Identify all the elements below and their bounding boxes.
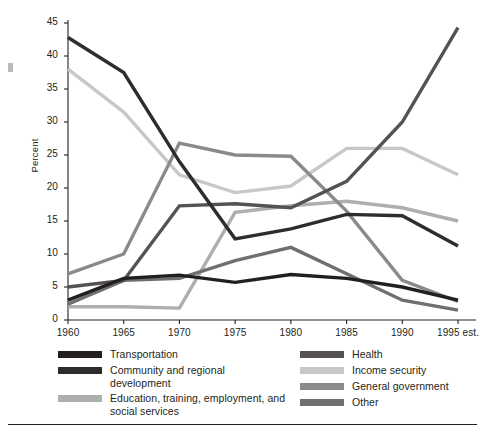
x-axis-tick-label: 1960	[36, 327, 100, 338]
legend-item[interactable]: Transportation	[58, 348, 288, 361]
legend-item-label: Education, training, employment, and soc…	[110, 392, 285, 417]
line-chart-svg	[0, 0, 485, 340]
y-axis-tick-label: 20	[32, 181, 58, 192]
legend-item[interactable]: Other	[300, 396, 485, 409]
y-axis-tick-label: 15	[32, 214, 58, 225]
legend-item-label: Other	[352, 396, 379, 409]
x-axis-tick-label: 1980	[259, 327, 323, 338]
legend-column-left: TransportationCommunity and regional dev…	[58, 348, 288, 420]
legend-item-label: Income security	[352, 364, 426, 377]
y-axis-tick-label: 0	[32, 313, 58, 324]
series-line	[68, 38, 458, 247]
bottom-divider	[8, 424, 477, 425]
legend-item-label: Community and regional development	[110, 364, 288, 389]
chart-figure: Percent 05101520253035404519601965197019…	[0, 0, 485, 435]
y-axis-tick-label: 30	[32, 115, 58, 126]
legend-item-label: Health	[352, 348, 383, 361]
y-axis-tick-label: 5	[32, 280, 58, 291]
legend-item[interactable]: Community and regional development	[58, 364, 288, 389]
y-axis-tick-label: 45	[32, 16, 58, 27]
legend-color-swatch	[58, 351, 102, 358]
legend-color-swatch	[300, 367, 344, 374]
legend-item-label: Transportation	[110, 348, 178, 361]
y-axis-tick-label: 40	[32, 49, 58, 60]
x-axis-tick-label: 1985	[315, 327, 379, 338]
legend-column-right: HealthIncome securityGeneral governmentO…	[300, 348, 485, 412]
y-axis-tick-label: 25	[32, 148, 58, 159]
legend-color-swatch	[300, 351, 344, 358]
legend-item[interactable]: Education, training, employment, and soc…	[58, 392, 288, 417]
x-axis-tick-label: 1990	[370, 327, 434, 338]
y-axis-tick-label: 10	[32, 247, 58, 258]
legend-color-swatch	[58, 367, 102, 374]
legend-item[interactable]: General government	[300, 380, 485, 393]
y-axis-tick-label: 35	[32, 82, 58, 93]
legend-color-swatch	[58, 395, 102, 402]
legend-item[interactable]: Income security	[300, 364, 485, 377]
legend-item[interactable]: Health	[300, 348, 485, 361]
plot-area: Percent 05101520253035404519601965197019…	[0, 0, 485, 340]
x-axis-tick-label: 1970	[147, 327, 211, 338]
legend-color-swatch	[300, 383, 344, 390]
legend-item-label: General government	[352, 380, 449, 393]
series-line	[68, 69, 458, 192]
x-axis-tick-label: 1975	[203, 327, 267, 338]
x-axis-tick-label: 1965	[92, 327, 156, 338]
chart-legend: TransportationCommunity and regional dev…	[0, 348, 485, 410]
x-axis-tick-label: 1995 est.	[426, 327, 485, 338]
legend-color-swatch	[300, 399, 344, 406]
